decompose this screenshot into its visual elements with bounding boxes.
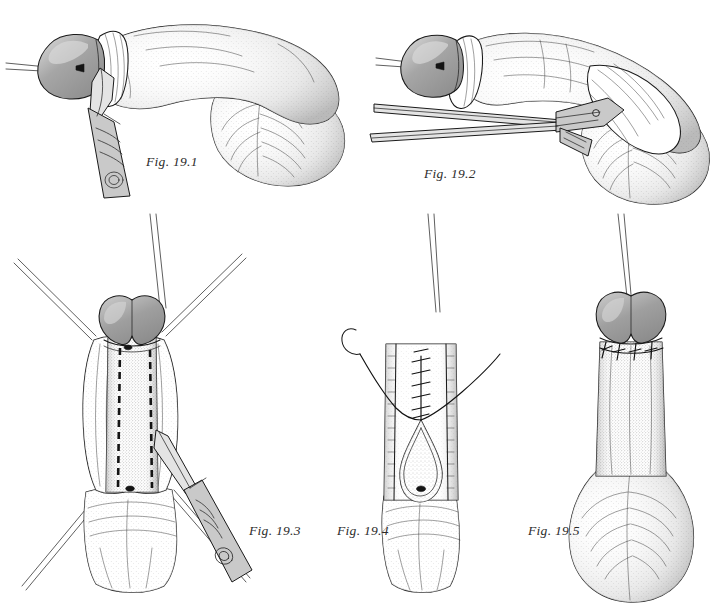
caption-fig-19-5: Fig. 19.5 xyxy=(527,523,580,538)
caption-fig-19-3: Fig. 19.3 xyxy=(248,523,301,538)
scrotum-19-5 xyxy=(569,470,693,602)
caption-fig-19-4: Fig. 19.4 xyxy=(336,523,389,538)
glans-19-5 xyxy=(596,292,666,344)
caption-fig-19-1: Fig. 19.1 xyxy=(145,154,198,169)
shaft-base-19-4 xyxy=(382,492,460,593)
shaft-19-5 xyxy=(596,342,666,476)
caption-fig-19-2: Fig. 19.2 xyxy=(423,166,476,181)
illustration-canvas: Fig. 19.1 xyxy=(0,0,718,612)
figure-plate: Fig. 19.1 xyxy=(0,0,718,612)
shaft-base-19-3 xyxy=(84,486,177,592)
